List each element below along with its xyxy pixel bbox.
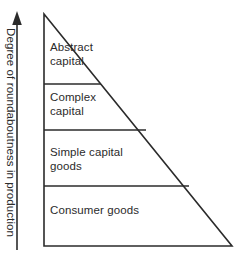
tier-label-abstract-capital: Abstract capital	[50, 40, 93, 68]
tier-label-simple-capital-goods: Simple capital goods	[50, 145, 123, 173]
diagram-canvas	[0, 0, 238, 259]
pyramid-diagram: Degree of roundaboutness in production A…	[0, 0, 238, 259]
tier-label-complex-capital: Complex capital	[50, 90, 96, 118]
up-arrow-icon	[12, 11, 22, 25]
axis-label-roundaboutness: Degree of roundaboutness in production	[4, 28, 17, 237]
tier-label-consumer-goods: Consumer goods	[50, 203, 139, 217]
